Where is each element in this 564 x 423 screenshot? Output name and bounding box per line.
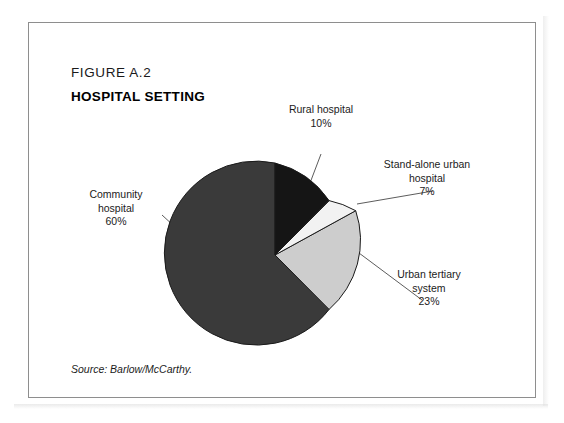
pie-label-community-hospital: Community hospital 60% xyxy=(55,188,177,229)
pie-label-standalone-urban-hospital-name-line2: hospital xyxy=(359,172,495,186)
pie-label-standalone-urban-hospital-name-line1: Stand-alone urban xyxy=(384,158,470,170)
leader-line-rural xyxy=(310,154,321,183)
pie-label-rural-hospital-name: Rural hospital xyxy=(289,103,353,115)
pie-label-community-hospital-value: 60% xyxy=(55,215,177,229)
pie-label-rural-hospital: Rural hospital 10% xyxy=(262,103,380,130)
pie-label-standalone-urban-hospital: Stand-alone urban hospital 7% xyxy=(359,158,495,199)
pie-label-standalone-urban-hospital-value: 7% xyxy=(359,185,495,199)
page-edge-shade-bottom xyxy=(14,404,548,409)
pie-label-urban-tertiary-system-value: 23% xyxy=(369,295,489,309)
figure-frame: FIGURE A.2 HOSPITAL SETTING Rural hospit… xyxy=(28,22,536,398)
pie-label-urban-tertiary-system-name-line2: system xyxy=(369,282,489,296)
pie-label-urban-tertiary-system-name-line1: Urban tertiary xyxy=(397,268,461,280)
pie-label-community-hospital-name-line1: Community xyxy=(89,188,142,200)
source-note: Source: Barlow/McCarthy. xyxy=(71,363,192,375)
pie-label-rural-hospital-value: 10% xyxy=(262,117,380,131)
pie-chart: Rural hospital 10% Stand-alone urban hos… xyxy=(29,23,537,399)
pie-label-urban-tertiary-system: Urban tertiary system 23% xyxy=(369,268,489,309)
pie-label-community-hospital-name-line2: hospital xyxy=(55,202,177,216)
page-edge-shade-right xyxy=(543,16,549,406)
